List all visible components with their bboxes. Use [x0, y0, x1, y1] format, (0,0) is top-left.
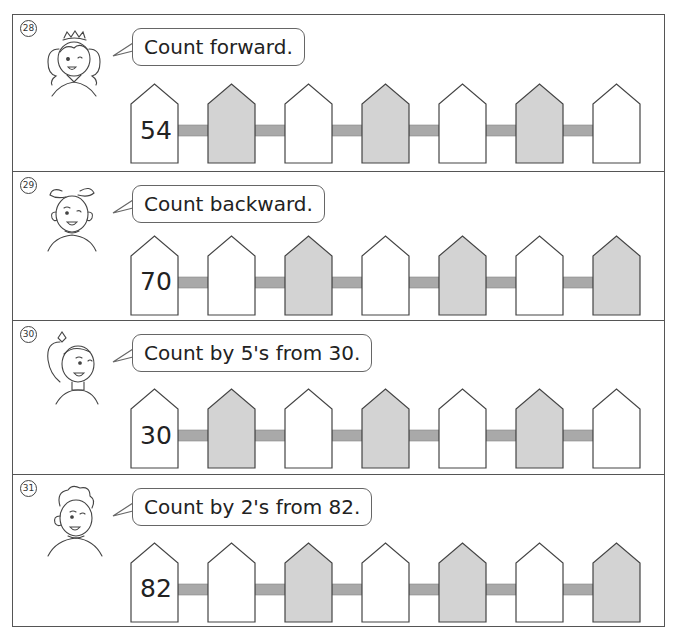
fence-rail: [563, 125, 593, 136]
fence-picket-answer[interactable]: [208, 543, 255, 622]
fence-picket-answer[interactable]: [208, 236, 255, 315]
fence-picket-shaded: [285, 543, 332, 622]
fence-rail: [255, 584, 285, 595]
question-31: 31 Count by 2's from 82. 82: [12, 474, 665, 627]
fence-picket-shaded: [516, 84, 563, 163]
start-number: 70: [140, 267, 172, 296]
question-30: 30 Count by 5's from 30. 30: [12, 320, 665, 474]
fence-picket-shaded: [362, 84, 409, 163]
fence-rail: [409, 430, 439, 441]
fence-rail: [178, 277, 208, 288]
fence-picket-shaded: [516, 389, 563, 468]
fence-rail: [486, 584, 516, 595]
fence-rail: [409, 584, 439, 595]
fence-picket-shaded: [285, 236, 332, 315]
fence-picket-shaded: [439, 543, 486, 622]
fence-rail: [486, 125, 516, 136]
fence-picket-shaded: [593, 543, 640, 622]
fence-rail: [332, 584, 362, 595]
fence-picket-answer[interactable]: [439, 84, 486, 163]
fence-picket-answer[interactable]: [593, 84, 640, 163]
number-fence: [12, 320, 665, 480]
fence-rail: [332, 125, 362, 136]
fence-rail: [332, 430, 362, 441]
question-28: 28 Count forward. 54: [12, 14, 665, 171]
number-fence: [12, 474, 665, 634]
fence-picket-shaded: [439, 236, 486, 315]
question-29: 29 Count backward. 70: [12, 171, 665, 320]
fence-picket-answer[interactable]: [516, 236, 563, 315]
fence-rail: [486, 430, 516, 441]
number-fence: [12, 171, 665, 331]
fence-picket-answer[interactable]: [593, 389, 640, 468]
fence-rail: [563, 430, 593, 441]
fence-rail: [332, 277, 362, 288]
fence-rail: [178, 125, 208, 136]
fence-rail: [409, 125, 439, 136]
start-number: 54: [140, 116, 172, 145]
start-number: 82: [140, 574, 172, 603]
fence-picket-shaded: [208, 389, 255, 468]
fence-picket-shaded: [208, 84, 255, 163]
fence-rail: [255, 430, 285, 441]
fence-picket-answer[interactable]: [285, 389, 332, 468]
fence-rail: [255, 125, 285, 136]
fence-rail: [178, 584, 208, 595]
fence-rail: [255, 277, 285, 288]
fence-picket-answer[interactable]: [285, 84, 332, 163]
fence-picket-answer[interactable]: [362, 543, 409, 622]
start-number: 30: [140, 421, 172, 450]
fence-picket-answer[interactable]: [439, 389, 486, 468]
fence-picket-answer[interactable]: [516, 543, 563, 622]
number-fence: [12, 14, 665, 174]
fence-rail: [563, 277, 593, 288]
fence-picket-shaded: [362, 389, 409, 468]
fence-picket-answer[interactable]: [362, 236, 409, 315]
fence-rail: [178, 430, 208, 441]
fence-rail: [486, 277, 516, 288]
fence-rail: [409, 277, 439, 288]
fence-picket-shaded: [593, 236, 640, 315]
fence-rail: [563, 584, 593, 595]
